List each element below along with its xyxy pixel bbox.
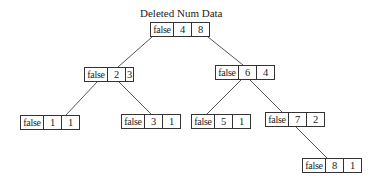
node-value: 3 [125, 68, 133, 81]
node-value: 1 [61, 116, 79, 129]
deleted-flag: false [122, 115, 144, 128]
node-value: 4 [256, 66, 274, 79]
diagram-title: Deleted Num Data [140, 6, 222, 20]
node-key: 2 [107, 68, 125, 81]
tree-edge [208, 37, 243, 65]
node-key: 5 [214, 115, 232, 128]
node-value: 8 [191, 23, 209, 36]
tree-node: false 3 1 [121, 114, 181, 129]
deleted-flag: false [303, 159, 325, 172]
node-key: 7 [288, 113, 306, 126]
node-value: 1 [343, 159, 361, 172]
tree-edge [66, 82, 97, 115]
deleted-flag: false [216, 66, 238, 79]
tree-edge [296, 127, 327, 158]
node-key: 3 [144, 115, 162, 128]
deleted-flag: false [85, 68, 107, 81]
tree-node: false 5 1 [191, 114, 251, 129]
deleted-flag: false [192, 115, 214, 128]
tree-diagram: Deleted Num Data false 4 8 false 2 3 fal… [0, 0, 378, 185]
tree-edge [207, 80, 241, 114]
tree-node: false 1 1 [20, 115, 80, 130]
tree-node: false 2 3 [84, 67, 134, 82]
deleted-flag: false [266, 113, 288, 126]
tree-edge [250, 80, 282, 112]
tree-node: false 6 4 [215, 65, 275, 80]
node-key: 1 [43, 116, 61, 129]
node-key: 6 [238, 66, 256, 79]
tree-edge [119, 82, 151, 114]
node-key: 4 [173, 23, 191, 36]
tree-node-root: false 4 8 [150, 22, 210, 37]
node-key: 8 [325, 159, 343, 172]
tree-node: false 8 1 [302, 158, 362, 173]
node-value: 1 [162, 115, 180, 128]
node-value: 2 [306, 113, 324, 126]
deleted-flag: false [21, 116, 43, 129]
tree-node: false 7 2 [265, 112, 325, 127]
node-value: 1 [232, 115, 250, 128]
tree-edge [118, 37, 152, 67]
deleted-flag: false [151, 23, 173, 36]
